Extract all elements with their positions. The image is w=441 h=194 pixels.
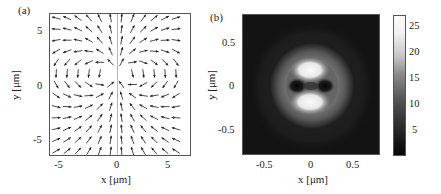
xtick-a-neg5: -5	[54, 159, 63, 170]
intensity-map	[243, 15, 380, 155]
xtick-a-0: 0	[114, 159, 119, 170]
panel-b-label: (b)	[210, 12, 223, 23]
xtick-a-5: 5	[165, 159, 170, 170]
colorbar-tick-25: 25	[409, 20, 420, 31]
ylabel-a: y [μm]	[10, 70, 21, 100]
panel-a-label: (a)	[18, 5, 30, 16]
ytick-a-0: 0	[37, 80, 42, 91]
xtick-b-0: 0	[308, 159, 313, 170]
colorbar-tick-5: 5	[412, 124, 417, 135]
panel-b-heatmap	[242, 14, 380, 155]
panel-a-quiver-plot	[49, 13, 191, 156]
colorbar-tick-10: 10	[409, 98, 420, 109]
ytick-a-neg5: -5	[33, 134, 42, 145]
ytick-b-neg0.5: -0.5	[218, 124, 235, 135]
colorbar-tick-20: 20	[409, 46, 420, 57]
ytick-a-5: 5	[37, 25, 42, 36]
ylabel-b: y [μm]	[206, 70, 217, 100]
xtick-b-0.5: 0.5	[346, 159, 359, 170]
ytick-b-0: 0	[229, 80, 234, 91]
ytick-b-0.5: 0.5	[222, 37, 235, 48]
vector-field	[50, 14, 190, 155]
colorbar-tick-15: 15	[409, 72, 420, 83]
xlabel-b: x [μm]	[298, 174, 328, 185]
xlabel-a: x [μm]	[101, 174, 131, 185]
xtick-b-neg0.5: -0.5	[256, 159, 273, 170]
colorbar	[393, 15, 406, 156]
